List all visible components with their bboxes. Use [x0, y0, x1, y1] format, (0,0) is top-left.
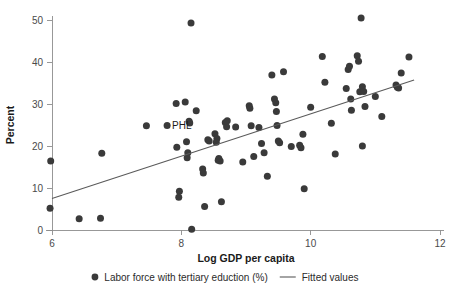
data-point [361, 103, 368, 110]
data-point [378, 113, 385, 120]
data-point [218, 198, 225, 205]
data-point [276, 139, 283, 146]
data-point [358, 14, 365, 21]
legend-label-series: Labor force with tertiary eduction (%) [104, 272, 267, 283]
y-tick-label: 50 [32, 15, 44, 26]
data-point [183, 138, 190, 145]
data-point [224, 117, 231, 124]
data-point [182, 98, 189, 105]
data-point [246, 105, 253, 112]
data-point [232, 124, 239, 131]
data-point [346, 63, 353, 70]
fitted-line-group [52, 80, 414, 198]
data-point [299, 131, 306, 138]
y-tick-label: 20 [32, 141, 44, 152]
y-axis-title: Percent [4, 105, 16, 144]
data-point [328, 120, 335, 127]
x-tick-label: 6 [49, 238, 55, 249]
y-tick-label: 10 [32, 183, 44, 194]
data-point [193, 107, 200, 114]
data-point [280, 68, 287, 75]
data-point [47, 205, 54, 212]
data-point [173, 100, 180, 107]
data-point [239, 158, 246, 165]
data-point [343, 85, 350, 92]
data-point [264, 173, 271, 180]
data-point [272, 99, 279, 106]
axes-group: 01020304050 681012 [32, 15, 446, 249]
data-point [348, 107, 355, 114]
x-tick-label: 10 [305, 238, 317, 249]
data-points-group [47, 14, 413, 232]
chart-svg: 01020304050 681012 PHL Log GDP per capit… [0, 0, 450, 290]
data-point [405, 53, 412, 60]
data-point [297, 144, 304, 151]
data-point [321, 79, 328, 86]
data-point [355, 58, 362, 65]
y-axis-ticks: 01020304050 [32, 15, 52, 236]
x-tick-label: 12 [434, 238, 446, 249]
data-point [248, 122, 255, 129]
data-point [175, 194, 182, 201]
data-point [268, 72, 275, 79]
data-point [261, 149, 268, 156]
point-annotations-group: PHL [172, 120, 192, 131]
data-point [164, 122, 171, 129]
data-point [215, 155, 222, 162]
data-point [143, 122, 150, 129]
y-tick-label: 40 [32, 57, 44, 68]
legend-label-fitted: Fitted values [302, 272, 359, 283]
data-point [201, 203, 208, 210]
data-point [319, 53, 326, 60]
y-tick-label: 30 [32, 99, 44, 110]
data-point [173, 144, 180, 151]
data-point [301, 185, 308, 192]
data-point [360, 88, 367, 95]
data-point [97, 215, 104, 222]
fitted-values-line [52, 80, 414, 198]
data-point [98, 150, 105, 157]
data-point [250, 153, 257, 160]
x-axis-ticks: 681012 [49, 230, 446, 249]
data-point [188, 226, 195, 233]
x-axis-title: Log GDP per capita [197, 252, 294, 264]
data-point [307, 104, 314, 111]
data-point [188, 19, 195, 26]
data-point [200, 169, 207, 176]
chart-legend: Labor force with tertiary eduction (%) F… [92, 272, 359, 283]
data-point [359, 143, 366, 150]
point-annotation-label: PHL [172, 120, 192, 131]
data-point [332, 150, 339, 157]
x-tick-label: 8 [179, 238, 185, 249]
data-point [258, 140, 265, 147]
legend-marker-icon [92, 274, 99, 281]
scatter-chart-figure: 01020304050 681012 PHL Log GDP per capit… [0, 0, 450, 290]
data-point [47, 158, 54, 165]
data-point [398, 69, 405, 76]
data-point [76, 215, 83, 222]
data-point [206, 137, 213, 144]
y-tick-label: 0 [37, 225, 43, 236]
data-point [273, 108, 280, 115]
data-point [288, 143, 295, 150]
